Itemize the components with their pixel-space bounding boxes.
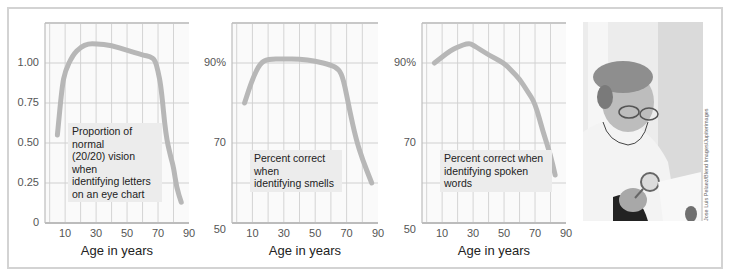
chart-annotation: Percent correct whenidentifying spoken w… — [440, 150, 552, 192]
y-tick-label: 50 — [380, 223, 416, 235]
y-tick-label: 70 — [380, 136, 416, 148]
annotation-line: identifying spoken words — [444, 165, 548, 190]
x-tick-label: 50 — [492, 227, 516, 239]
photo-credit: Jose Luis Pelaez/Blend Images/Jupiterima… — [703, 108, 709, 221]
x-axis-title: Age in years — [422, 243, 566, 258]
x-tick-label: 90 — [554, 227, 578, 239]
y-tick-label: 90% — [380, 56, 416, 68]
photo-illustration — [583, 22, 703, 221]
x-tick-label: 30 — [461, 227, 485, 239]
x-tick-label: 10 — [430, 227, 454, 239]
photo-elderly-woman — [583, 22, 703, 221]
annotation-line: Percent correct when — [444, 152, 548, 165]
x-tick-label: 70 — [523, 227, 547, 239]
